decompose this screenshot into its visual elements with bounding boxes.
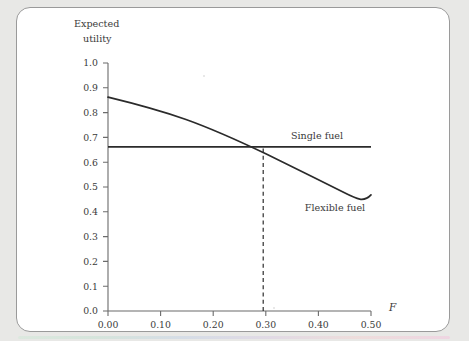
flexible-fuel-curve: [108, 97, 371, 199]
y-tick-marks: [103, 63, 108, 311]
x-tick-marks: [108, 311, 371, 316]
scan-speck: [203, 75, 205, 77]
y-tick-label: 1.0: [83, 57, 98, 68]
y-tick-label: 0.1: [83, 281, 98, 292]
x-tick-label: 0.00: [98, 319, 119, 330]
chart-canvas: 1.0 0.9 0.8 0.7 0.6 0.5 0.4 0.3 0.2 0.1 …: [17, 8, 450, 332]
x-tick-label: 0.10: [150, 319, 171, 330]
x-tick-label: 0.50: [361, 319, 382, 330]
y-tick-label: 0.3: [83, 231, 98, 242]
figure-card: 1.0 0.9 0.8 0.7 0.6 0.5 0.4 0.3 0.2 0.1 …: [16, 7, 450, 332]
y-tick-label: 0.0: [83, 305, 98, 316]
scan-speck: [273, 307, 275, 309]
y-tick-label: 0.9: [83, 82, 98, 93]
x-tick-label: 0.40: [308, 319, 329, 330]
y-tick-label: 0.5: [83, 181, 98, 192]
x-axis-variable-label: F: [388, 301, 397, 313]
scan-color-band: [18, 336, 450, 339]
y-tick-label: 0.4: [83, 206, 98, 217]
y-tick-label: 0.8: [83, 107, 98, 118]
y-tick-label: 0.6: [83, 157, 98, 168]
y-tick-label: 0.7: [83, 132, 98, 143]
y-axis-title-line1: Expected: [74, 18, 119, 29]
single-fuel-label: Single fuel: [291, 130, 343, 141]
x-tick-label: 0.30: [255, 319, 276, 330]
y-tick-label: 0.2: [83, 256, 98, 267]
x-tick-label: 0.20: [203, 319, 224, 330]
flexible-fuel-label: Flexible fuel: [305, 202, 365, 213]
y-axis-title-line2: utility: [83, 33, 112, 44]
